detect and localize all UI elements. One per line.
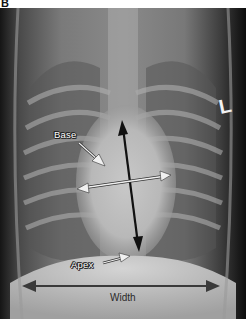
width-label: Width — [110, 293, 136, 303]
apex-label: Apex — [71, 260, 93, 270]
base-label: Base — [54, 130, 76, 140]
radiograph-image: L Base Apex Width — [0, 8, 246, 319]
radiograph-graphic — [0, 8, 246, 319]
